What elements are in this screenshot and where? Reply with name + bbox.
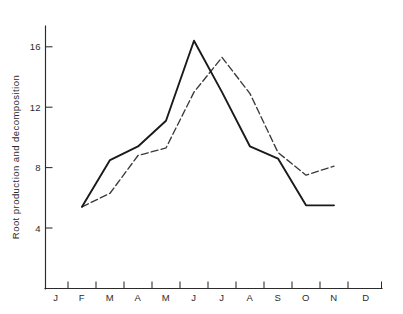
y-axis-tick-labels: 16 12 8 4 (30, 41, 41, 233)
series-line-root-decomposition (82, 57, 334, 206)
y-tick-label-16: 16 (30, 41, 41, 52)
x-tick-label-may: M (162, 292, 171, 303)
x-axis-ticks (68, 282, 382, 289)
y-axis-ticks (46, 47, 53, 228)
x-tick-label-jul: J (219, 292, 224, 303)
y-tick-label-8: 8 (35, 162, 41, 173)
chart-figure: 16 12 8 4 J F M A M J J (0, 0, 403, 314)
x-tick-label-mar: M (106, 292, 115, 303)
x-tick-label-aug: A (247, 292, 254, 303)
x-tick-label-dec: D (362, 292, 369, 303)
x-tick-label-jan: J (53, 292, 58, 303)
x-tick-label-feb: F (79, 292, 85, 303)
series-line-root-production (82, 41, 334, 207)
y-axis-title: Root production and decomposition (10, 75, 21, 239)
x-axis-tick-labels: J F M A M J J A S O N D (53, 292, 369, 303)
line-chart-canvas: 16 12 8 4 J F M A M J J (0, 0, 403, 314)
y-tick-label-12: 12 (30, 102, 41, 113)
x-tick-label-apr: A (135, 292, 142, 303)
x-tick-label-nov: N (330, 292, 337, 303)
y-tick-label-4: 4 (35, 223, 41, 234)
x-tick-label-sep: S (275, 292, 282, 303)
x-tick-label-oct: O (302, 292, 310, 303)
x-tick-label-jun: J (191, 292, 196, 303)
